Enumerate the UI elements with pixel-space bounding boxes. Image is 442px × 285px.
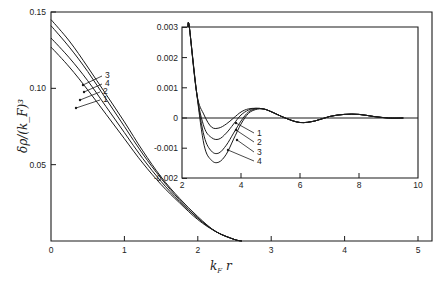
inset-callout-arrowhead — [235, 122, 237, 124]
inset-y-tick-label: 0.003 — [157, 22, 179, 32]
x-title-k: k — [210, 259, 217, 273]
inset-x-tick-label: 4 — [239, 180, 244, 190]
inset-y-tick-label: 0.002 — [157, 53, 179, 63]
inset-callout-arrowhead — [227, 149, 229, 151]
main-y-axis: 0.050.100.15 — [29, 7, 56, 170]
inset-callout-label-4: 4 — [257, 156, 262, 166]
main-callout-arrowhead — [79, 99, 81, 101]
main-y-axis-title: δρ/(k_F)³ — [16, 99, 30, 153]
main-x-tick-label: 5 — [416, 245, 421, 255]
main-callout-arrowhead — [75, 107, 77, 109]
main-y-tick-label: 0.10 — [29, 83, 46, 93]
inset-x-tick-label: 2 — [180, 180, 185, 190]
main-x-tick-label: 2 — [195, 245, 200, 255]
main-callout-arrow — [76, 100, 100, 108]
inset-y-tick-label: 0.001 — [157, 83, 179, 93]
x-title-r: r — [222, 259, 233, 273]
main-callout-label-1: 1 — [103, 94, 108, 104]
inset-y-tick-label: 0 — [173, 113, 178, 123]
main-x-axis: 012345 — [49, 236, 421, 255]
inset-x-tick-label: 8 — [357, 180, 362, 190]
inset-callout-arrowhead — [235, 129, 237, 131]
main-callout-arrowhead — [83, 91, 85, 93]
inset-callout-label-2: 2 — [257, 137, 262, 147]
inset-plot: 0.0030.0020.0010-0.001-0.002 246810 1234 — [154, 22, 423, 190]
inset-x-tick-label: 10 — [413, 180, 423, 190]
chart-canvas: 0.050.100.15 012345 3421 δρ/(k_F)³ kF r … — [0, 0, 442, 285]
main-x-tick-label: 1 — [122, 245, 127, 255]
main-y-tick-label: 0.05 — [29, 160, 46, 170]
main-curve-callouts: 3421 — [75, 70, 110, 109]
main-callout-arrowhead — [82, 84, 84, 86]
inset-x-tick-label: 6 — [298, 180, 303, 190]
inset-y-tick-label: -0.001 — [154, 143, 178, 153]
main-x-tick-label: 0 — [49, 245, 54, 255]
main-x-axis-title: kF r — [210, 259, 233, 275]
inset-background — [182, 27, 418, 178]
main-x-tick-label: 4 — [342, 245, 347, 255]
main-x-tick-label: 3 — [269, 245, 274, 255]
main-y-tick-label: 0.15 — [29, 7, 46, 17]
inset-y-tick-label: -0.002 — [154, 173, 178, 183]
inset-callout-arrowhead — [236, 139, 238, 141]
